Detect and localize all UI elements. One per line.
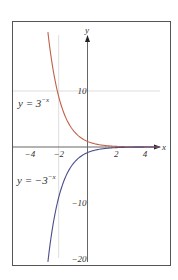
y-tick-label: −20 xyxy=(71,254,87,264)
x-axis-label: x xyxy=(161,142,166,152)
plot-frame xyxy=(13,22,171,266)
graph-canvas: −4−22410−10−20 y x y = 3−x y = −3−x xyxy=(0,0,178,280)
x-tick-label: −2 xyxy=(53,149,64,159)
x-tick-label: 2 xyxy=(114,149,119,159)
y-tick-label: −10 xyxy=(71,198,87,208)
x-tick-label: −4 xyxy=(25,149,36,159)
x-tick-label: 4 xyxy=(143,149,148,159)
y-tick-label: 10 xyxy=(78,86,88,96)
y-axis-label: y xyxy=(84,25,89,35)
